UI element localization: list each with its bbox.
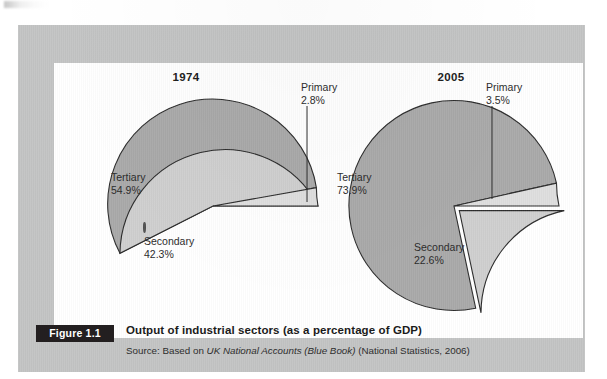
source-publication-title: UK National Accounts (Blue Book) <box>207 345 356 356</box>
figure-source-line: Source: Based on UK National Accounts (B… <box>126 345 470 356</box>
label-secondary-2005-name: Secondary <box>414 241 464 253</box>
label-secondary-1974-name: Secondary <box>144 235 194 247</box>
figure-number-badge: Figure 1.1 <box>36 325 114 342</box>
label-primary-2005-pct: 3.5% <box>486 94 522 107</box>
label-primary-1974-pct: 2.8% <box>301 94 337 107</box>
label-primary-1974-name: Primary <box>301 81 337 93</box>
slice-secondary-2005[interactable] <box>459 211 564 313</box>
source-suffix: (National Statistics, 2006) <box>355 345 469 356</box>
label-secondary-2005-pct: 22.6% <box>414 254 464 267</box>
label-primary-2005-name: Primary <box>486 81 522 93</box>
chart-panel: 1974 2005 <box>54 63 583 338</box>
label-tertiary-1974-name: Tertiary <box>111 171 145 183</box>
label-secondary-1974-pct: 42.3% <box>144 248 194 261</box>
label-tertiary-1974: Tertiary 54.9% <box>111 171 145 197</box>
label-primary-2005: Primary 3.5% <box>486 81 522 107</box>
label-primary-1974: Primary 2.8% <box>301 81 337 107</box>
label-tertiary-2005: Tertiary 73.9% <box>337 171 371 197</box>
label-tertiary-1974-pct: 54.9% <box>111 184 145 197</box>
figure-caption-title: Output of industrial sectors (as a perce… <box>126 324 422 336</box>
source-prefix: Source: Based on <box>126 345 207 356</box>
label-secondary-1974: Secondary 42.3% <box>144 235 194 261</box>
scan-speck-artifact <box>143 222 146 233</box>
scan-artifact <box>4 1 50 8</box>
label-tertiary-2005-pct: 73.9% <box>337 184 371 197</box>
pie-2005 <box>349 101 564 313</box>
label-secondary-2005: Secondary 22.6% <box>414 241 464 267</box>
figure-caption: Figure 1.1 Output of industrial sectors … <box>18 318 585 372</box>
label-tertiary-2005-name: Tertiary <box>337 171 371 183</box>
